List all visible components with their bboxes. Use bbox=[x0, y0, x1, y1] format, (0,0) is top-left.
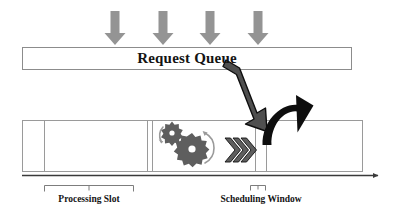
request-queue-label: Request Queue bbox=[22, 47, 352, 70]
processing-slot-caption: Processing Slot bbox=[24, 194, 154, 204]
incoming-arrow-1 bbox=[105, 11, 126, 45]
incoming-arrow-3 bbox=[200, 11, 221, 45]
incoming-arrow-2 bbox=[153, 11, 174, 45]
diagram-graphics bbox=[0, 0, 406, 221]
incoming-arrow-4 bbox=[248, 11, 269, 45]
incoming-request-arrows bbox=[105, 11, 269, 45]
scheduling-window-caption: Scheduling Window bbox=[196, 194, 326, 204]
diagram-canvas: Request Queue Processing Slot Scheduling… bbox=[0, 0, 406, 221]
scheduling-window-bracket bbox=[251, 186, 266, 191]
processing-slot-bracket bbox=[45, 186, 134, 192]
